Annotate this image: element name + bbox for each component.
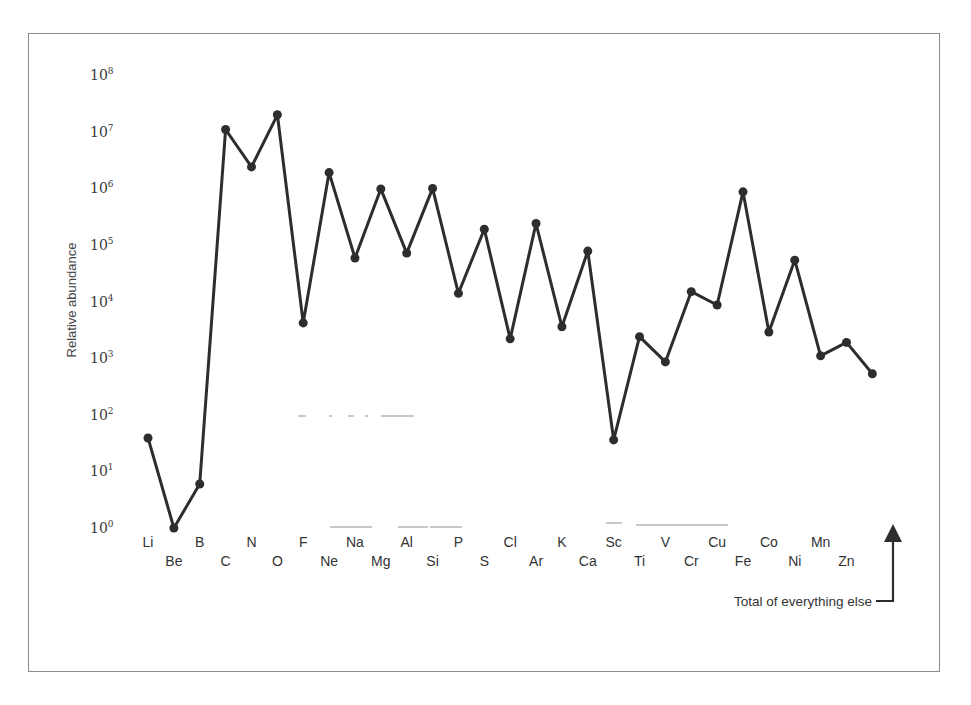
data-point-p [454, 289, 463, 298]
data-point-s [480, 225, 489, 234]
x-label-mg: Mg [371, 553, 390, 569]
scan-artifacts [298, 416, 728, 527]
data-point-f [299, 318, 308, 327]
total-annotation-label: Total of everything else [734, 594, 872, 609]
data-point-ti [635, 332, 644, 341]
x-label-fe: Fe [735, 553, 752, 569]
x-label-li: Li [143, 534, 154, 550]
data-point-be [169, 524, 178, 533]
data-point-n [247, 162, 256, 171]
x-label-be: Be [165, 553, 182, 569]
x-label-si: Si [426, 553, 438, 569]
data-point-cr [687, 287, 696, 296]
data-point-mn [816, 351, 825, 360]
x-label-ne: Ne [320, 553, 338, 569]
data-point-o [273, 110, 282, 119]
x-label-b: B [195, 534, 204, 550]
y-tick-label: 101 [90, 462, 114, 479]
arrow-head-icon [884, 524, 902, 542]
abundance-line [148, 115, 872, 528]
data-point-si [428, 184, 437, 193]
y-tick-label: 102 [90, 406, 114, 423]
data-point-ne [325, 168, 334, 177]
data-point-cu [713, 301, 722, 310]
x-label-ca: Ca [579, 553, 597, 569]
x-label-cl: Cl [504, 534, 517, 550]
y-tick-label: 106 [90, 179, 114, 196]
x-label-n: N [246, 534, 256, 550]
x-label-sc: Sc [605, 534, 621, 550]
x-label-v: V [661, 534, 671, 550]
y-axis-ticks: 100101102103104105106107108 [90, 66, 114, 536]
data-point-na [350, 253, 359, 262]
y-axis-title: Relative abundance [64, 243, 79, 358]
x-label-cr: Cr [684, 553, 699, 569]
y-tick-label: 100 [90, 519, 114, 536]
annotation-arrow-icon [876, 540, 893, 601]
y-tick-label: 105 [90, 236, 114, 253]
y-tick-label: 107 [90, 123, 114, 140]
data-point-co [764, 328, 773, 337]
x-axis-labels: LiBeBCNOFNeNaMgAlSiPSClArKCaScTiVCrCuFeC… [143, 534, 855, 569]
x-label-na: Na [346, 534, 364, 550]
y-tick-label: 104 [90, 293, 114, 310]
data-point-li [144, 433, 153, 442]
data-point-sc [609, 435, 618, 444]
data-point-al [402, 249, 411, 258]
x-label-k: K [557, 534, 567, 550]
data-point-fe [739, 187, 748, 196]
y-tick-label: 108 [90, 66, 114, 83]
data-point-c [221, 125, 230, 134]
data-point-mg [376, 184, 385, 193]
x-label-mn: Mn [811, 534, 830, 550]
x-label-p: P [454, 534, 463, 550]
data-point-b [195, 479, 204, 488]
data-point-zn [842, 338, 851, 347]
y-tick-label: 103 [90, 349, 114, 366]
x-label-ni: Ni [788, 553, 801, 569]
x-label-zn: Zn [838, 553, 854, 569]
data-point-ar [532, 219, 541, 228]
data-point-ni [790, 256, 799, 265]
data-point-v [661, 357, 670, 366]
line-chart: 100101102103104105106107108 Relative abu… [0, 0, 971, 705]
data-point-k [557, 322, 566, 331]
x-label-f: F [299, 534, 308, 550]
x-label-ar: Ar [529, 553, 543, 569]
x-label-s: S [480, 553, 489, 569]
data-point-total [868, 369, 877, 378]
x-label-al: Al [400, 534, 412, 550]
data-point-ca [583, 247, 592, 256]
x-label-co: Co [760, 534, 778, 550]
x-label-ti: Ti [634, 553, 645, 569]
data-point-cl [506, 334, 515, 343]
x-label-o: O [272, 553, 283, 569]
x-label-cu: Cu [708, 534, 726, 550]
x-label-c: C [221, 553, 231, 569]
